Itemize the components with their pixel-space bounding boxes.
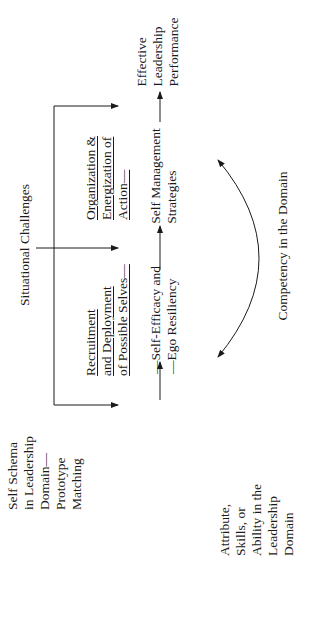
node-organization: Organization & Energization of Action— — [83, 136, 131, 220]
diagram-canvas: Self Schema in Leadership Domain— Protot… — [0, 0, 310, 624]
node-effective-performance: Effective Leadership Performance — [134, 18, 182, 87]
node-situational-challenges: Situational Challenges — [17, 184, 33, 306]
node-competency: Competency in the Domain — [275, 172, 291, 321]
node-self-management: Self Management Strategies — [148, 128, 180, 224]
node-recruitment: Recruitment and Deployment of Possible S… — [83, 264, 131, 376]
node-self-schema: Self Schema in Leadership Domain— Protot… — [5, 436, 85, 510]
node-attribute: Attribute, Skills, or Ability in the Lea… — [217, 484, 297, 556]
node-self-efficacy: —Self-Efficacy and —Ego Resiliency — [148, 266, 180, 374]
competency-arc — [218, 160, 259, 357]
